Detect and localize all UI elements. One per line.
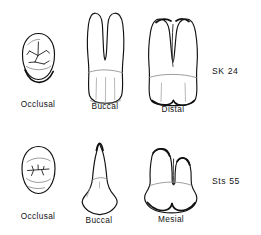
caption-sk24-buccal: Buccal [91,101,118,111]
sts55-mesial-drawing [145,149,197,213]
figure-root: Occlusal Buccal Distal SK 24 Occlusal Bu… [0,0,261,235]
caption-sts55-mesial: Mesial [158,214,184,224]
sts55-buccal-drawing [82,143,117,214]
sts55-occlusal-drawing [22,147,55,194]
specimen-label-sk24: SK 24 [212,66,238,76]
caption-sk24-occlusal: Occlusal [21,99,56,109]
sk24-occlusal-drawing [23,34,55,83]
caption-sts55-occlusal: Occlusal [21,211,56,221]
caption-sts55-buccal: Buccal [85,215,112,225]
sk24-buccal-drawing [87,13,123,103]
sk24-distal-drawing [149,19,198,106]
specimen-label-sts55: Sts 55 [212,176,240,186]
tooth-figure-drawing [0,0,261,235]
caption-sk24-distal: Distal [162,104,185,114]
